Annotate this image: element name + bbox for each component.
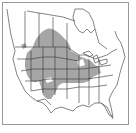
range-map: [3, 3, 129, 125]
map-frame: [2, 2, 129, 125]
